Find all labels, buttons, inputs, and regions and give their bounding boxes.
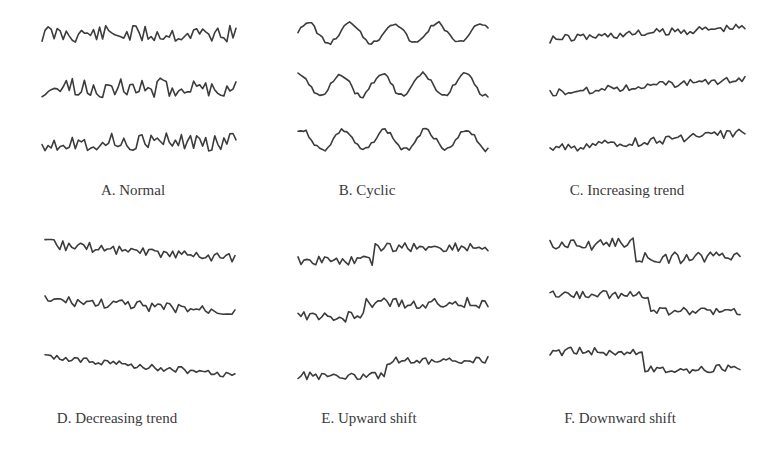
panel-label-increasing-trend: C. Increasing trend <box>570 182 685 199</box>
trace-line-2 <box>42 78 236 97</box>
traces-layer <box>42 22 745 380</box>
trace-line-1 <box>42 26 236 42</box>
panel-label-upward-shift: E. Upward shift <box>321 410 416 427</box>
trace-line-1 <box>550 238 740 263</box>
panel-label-normal: A. Normal <box>101 182 165 199</box>
trace-line-2 <box>550 77 745 96</box>
panel-downward-shift <box>550 238 740 373</box>
panel-label-decreasing-trend: D. Decreasing trend <box>57 410 177 427</box>
panel-increasing-trend <box>550 24 745 150</box>
trace-line-1 <box>298 22 488 45</box>
trace-line-2 <box>298 72 488 98</box>
trace-line-3 <box>298 129 488 152</box>
trace-line-3 <box>45 355 235 377</box>
trace-line-3 <box>298 357 488 380</box>
trace-line-2 <box>550 291 740 315</box>
trace-line-1 <box>550 24 745 43</box>
trace-line-3 <box>42 133 236 151</box>
panel-normal <box>42 26 236 151</box>
figure-canvas <box>0 0 782 453</box>
trace-line-3 <box>550 347 740 373</box>
trace-line-3 <box>550 129 745 151</box>
trace-line-2 <box>45 296 235 314</box>
trace-line-1 <box>298 243 488 265</box>
trace-line-2 <box>298 298 488 322</box>
panel-upward-shift <box>298 243 488 380</box>
trace-line-1 <box>45 240 235 262</box>
panel-label-cyclic: B. Cyclic <box>339 182 396 199</box>
panel-label-downward-shift: F. Downward shift <box>564 410 676 427</box>
panel-cyclic <box>298 22 488 152</box>
panel-decreasing-trend <box>45 240 235 377</box>
